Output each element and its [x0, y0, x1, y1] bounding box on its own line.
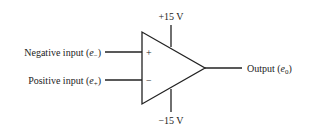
negative-supply-label: −15 V	[158, 115, 184, 126]
positive-supply-label: +15 V	[158, 11, 184, 22]
pin-sign-plus: +	[146, 47, 152, 58]
op-amp-diagram: + − +15 V −15 V Negative input (e−) Posi…	[0, 0, 313, 134]
op-amp-svg: + − +15 V −15 V Negative input (e−) Posi…	[0, 0, 313, 134]
pin-sign-minus: −	[146, 75, 152, 86]
op-amp-triangle	[142, 32, 205, 104]
negative-input-label: Negative input (e−)	[24, 47, 101, 60]
positive-input-label: Positive input (e+)	[28, 75, 101, 88]
output-label: Output (e0)	[247, 63, 292, 76]
